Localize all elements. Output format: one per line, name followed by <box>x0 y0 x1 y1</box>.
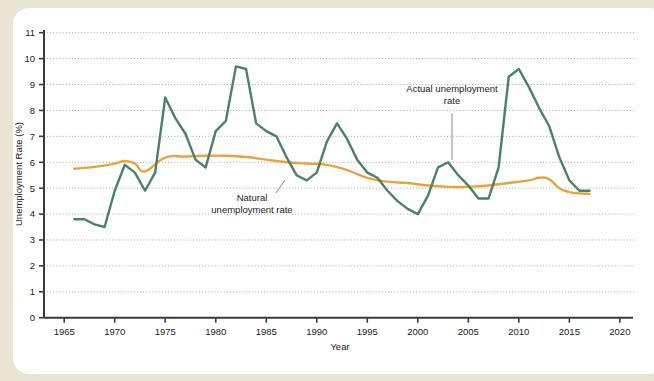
x-axis-ticks: 1965197019751980198519901995200020052010… <box>54 318 631 337</box>
actual-unemployment-rate-line <box>74 66 589 227</box>
natural-rate-leader-line <box>276 180 285 193</box>
x-tick-label: 2010 <box>508 326 529 337</box>
y-tick-label: 11 <box>25 27 35 38</box>
natural-rate-annotation-line2: unemployment rate <box>211 204 292 215</box>
actual-rate-annotation-line2: rate <box>444 95 460 106</box>
x-tick-label: 1980 <box>205 326 226 337</box>
x-tick-label: 1985 <box>256 326 277 337</box>
y-tick-label: 10 <box>24 53 35 64</box>
x-tick-label: 2005 <box>458 326 479 337</box>
y-axis-title: Unemployment Rate (%) <box>13 122 24 226</box>
y-tick-label: 1 <box>30 286 35 297</box>
actual-rate-annotation-line1: Actual unemployment <box>406 83 498 94</box>
x-axis-title: Year <box>330 341 349 352</box>
x-tick-label: 1990 <box>306 326 327 337</box>
y-tick-label: 9 <box>30 79 35 90</box>
y-tick-label: 3 <box>30 234 35 245</box>
y-tick-label: 4 <box>30 208 35 219</box>
figure-root: 1965197019751980198519901995200020052010… <box>0 0 654 381</box>
x-tick-label: 2000 <box>407 326 428 337</box>
x-tick-label: 1970 <box>104 326 125 337</box>
unemployment-rate-line-chart: 1965197019751980198519901995200020052010… <box>0 0 654 381</box>
y-tick-label: 2 <box>30 260 35 271</box>
natural-rate-annotation: Natural unemployment rate <box>211 180 292 215</box>
actual-rate-annotation: Actual unemployment rate <box>406 83 498 160</box>
x-tick-label: 1965 <box>54 326 75 337</box>
x-tick-label: 2020 <box>609 326 630 337</box>
y-axis-ticks: 01234567891011 <box>24 27 44 323</box>
y-tick-label: 8 <box>30 105 35 116</box>
y-tick-label: 0 <box>30 312 35 323</box>
y-tick-label: 7 <box>30 131 35 142</box>
x-tick-label: 2015 <box>559 326 580 337</box>
y-tick-label: 6 <box>30 157 35 168</box>
natural-rate-annotation-line1: Natural <box>237 192 268 203</box>
y-tick-label: 5 <box>30 183 35 194</box>
x-tick-label: 1995 <box>357 326 378 337</box>
x-tick-label: 1975 <box>155 326 176 337</box>
